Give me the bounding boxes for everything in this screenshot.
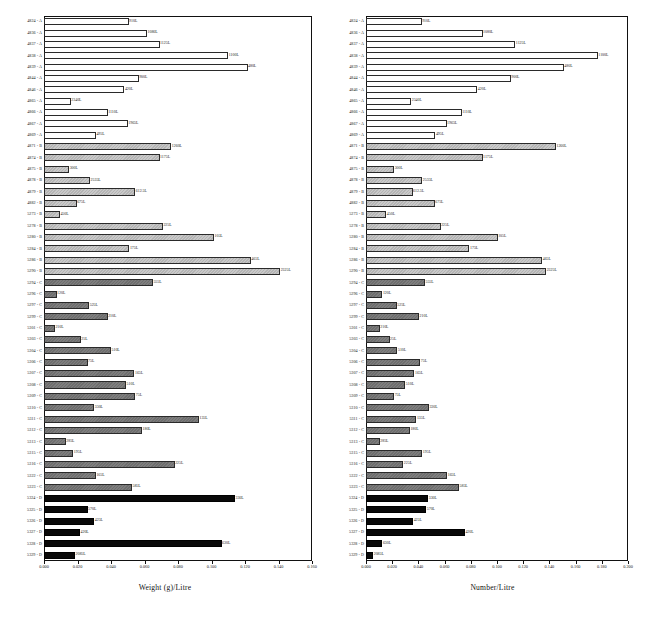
bar-row: 1125L [366,39,628,50]
bar-value-label: 1110L [462,111,472,115]
bar-A: 420L [44,86,124,93]
bar-value-label: 480L [564,65,572,69]
bar-row: 450L [44,209,312,220]
bar-C: 75L [44,359,88,366]
x-tick-label: 0.160 [307,564,317,569]
bar-row: 135L [366,413,628,424]
bar-row: 525L [366,300,628,311]
bar-value-label: 120L [57,292,65,296]
bar-value-label: 2340L [412,99,422,103]
bar-value-label: 425L [95,519,103,523]
category-label: 5329 - D [0,553,44,557]
bar-D: 630L [44,540,222,547]
category-label: 5286 - B [330,258,366,262]
category-label: 5312 - C [330,428,366,432]
bar-row: 330L [366,402,628,413]
bar-B: 1260L [366,143,556,150]
bar-row: 25L [44,334,312,345]
bar-row: 555L [366,277,628,288]
bar-value-label: 210L [55,326,63,330]
bar-value-label: 425L [414,519,422,523]
category-label: 5307 - C [0,371,44,375]
bar-B: 465L [44,257,251,264]
bar-value-label: 225L [404,463,412,467]
bar-value-label: 175L [130,247,138,251]
bar-B: 2325L [44,268,280,275]
bar-value-label: 510L [406,383,414,387]
bar-C: 165L [44,370,134,377]
category-label: 4869 - A [330,133,366,137]
bar-value-label: 165L [96,474,104,478]
category-label: 4866 - A [0,110,44,114]
bar-row: 910L [366,16,628,27]
bar-C: 25L [44,336,81,343]
bar-value-label: 210L [108,315,116,319]
category-label: 4844 - A [0,76,44,80]
bar-value-label: 465L [251,258,259,262]
bar-value-label: 420L [125,88,133,92]
bar-B: 225L [44,223,163,230]
x-tick-label: 0.120 [518,564,528,569]
category-label: 5280 - B [330,235,366,239]
bar-value-label: 495L [96,133,104,137]
category-label: 5286 - B [0,258,44,262]
bar-row: 2325L [366,266,628,277]
bar-row: 1175L [366,152,628,163]
category-label: 5294 - C [330,281,366,285]
bar-value-label: 612.5L [413,190,424,194]
category-label: 4837 - A [330,42,366,46]
category-label: 4871 - B [0,144,44,148]
bar-A: 1110L [366,109,462,116]
bar-value-label: 420L [81,531,89,535]
bar-value-label: 1175L [160,156,170,160]
category-label: 4837 - A [0,42,44,46]
category-label: 5297 - C [0,303,44,307]
bar-B: 675L [366,200,435,207]
category-label: 4836 - A [0,31,44,35]
category-label: 5273 - B [0,212,44,216]
bar-B: 612.5L [44,188,135,195]
bar-B: 2535L [44,177,90,184]
bar-row: 195L [366,447,628,458]
bar-value-label: 495L [436,133,444,137]
bar-row: 900L [44,73,312,84]
bar-row: 585L [44,482,312,493]
category-label: 5315 - C [330,451,366,455]
bar-value-label: 2535L [423,179,433,183]
bar-A: 910L [366,18,422,25]
bar-value-label: 525L [90,304,98,308]
bar-C: 210L [44,313,108,320]
bar-value-label: 555L [153,281,161,285]
bar-A: 420L [366,86,477,93]
bar-C: 25L [366,336,390,343]
bar-value-label: 105L [498,235,506,239]
bar-row: 510L [366,379,628,390]
bar-D: 630L [366,540,382,547]
bar-row: 1100L [44,50,312,61]
category-label: 5328 - D [330,542,366,546]
category-label: 4824 - A [330,19,366,23]
bar-D: 420L [366,529,465,536]
bar-row: 75L [366,391,628,402]
bar-row: 630L [44,538,312,549]
bar-value-label: 1080L [483,31,493,35]
bar-C: 210L [44,325,55,332]
bar-B: 225L [366,223,441,230]
bar-value-label: 180L [410,428,418,432]
bar-C: 135L [44,416,199,423]
bar-value-label: 75L [88,360,94,364]
bar-row: 480L [366,61,628,72]
bar-C: 555L [366,279,425,286]
bar-value-label: 330L [429,497,437,501]
bar-B: 1175L [366,154,483,161]
bar-row: 420L [44,527,312,538]
bar-value-label: 180L [142,428,150,432]
category-label: 5326 - D [330,519,366,523]
bar-value-label: 165L [415,372,423,376]
bar-row: 2535L [44,175,312,186]
bar-row: 465L [366,254,628,265]
category-label: 4869 - A [0,133,44,137]
bar-value-label: 450L [387,213,395,217]
bar-value-label: 195L [74,451,82,455]
bar-value-label: 210L [380,326,388,330]
